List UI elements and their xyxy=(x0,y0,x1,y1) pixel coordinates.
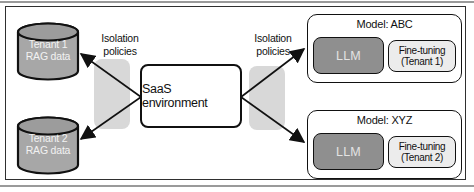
isolation-policies-label-left: Isolation policies xyxy=(88,32,152,58)
finetune-label: Fine-tuning (Tenant 2) xyxy=(399,141,446,164)
arrow-saas-to-tenant1-db xyxy=(81,54,141,97)
model-abc-box: Model: ABC LLM Fine-tuning (Tenant 1) xyxy=(307,14,462,83)
saas-environment-label: SaaS environment xyxy=(142,82,240,110)
llm-label: LLM xyxy=(336,49,361,63)
isolation-policies-label-right: Isolation policies xyxy=(241,32,305,58)
diagram-canvas: Tenant 1 RAG data Tenant 2 RAG data Isol… xyxy=(0,0,474,192)
tenant1-rag-database: Tenant 1 RAG data xyxy=(16,22,80,82)
saas-environment-box: SaaS environment xyxy=(140,64,242,128)
tenant1-db-label: Tenant 1 RAG data xyxy=(16,38,80,63)
arrow-saas-to-tenant2-db xyxy=(81,97,141,139)
model-xyz-llm-box: LLM xyxy=(313,133,384,170)
model-abc-finetune-box: Fine-tuning (Tenant 1) xyxy=(388,40,456,72)
finetune-label: Fine-tuning (Tenant 1) xyxy=(399,45,446,68)
model-abc-llm-box: LLM xyxy=(313,37,384,74)
llm-label: LLM xyxy=(336,145,361,159)
tenant2-rag-database: Tenant 2 RAG data xyxy=(16,116,80,176)
model-xyz-box: Model: XYZ LLM Fine-tuning (Tenant 2) xyxy=(307,110,462,179)
tenant2-db-label: Tenant 2 RAG data xyxy=(16,132,80,157)
arrow-saas-to-model-xyz xyxy=(241,97,304,142)
model-abc-title: Model: ABC xyxy=(308,18,461,30)
model-xyz-title: Model: XYZ xyxy=(308,114,461,126)
model-xyz-finetune-box: Fine-tuning (Tenant 2) xyxy=(388,136,456,168)
